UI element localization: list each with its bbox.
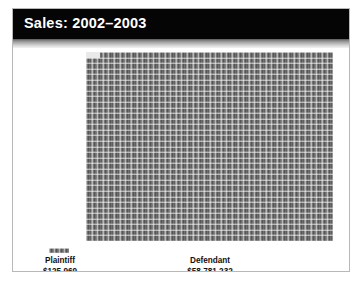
- defendant-value: $58,781,232: [149, 267, 271, 273]
- title-gradient-divider: [13, 39, 349, 48]
- defendant-label-group: Defendant $58,781,232: [149, 256, 271, 272]
- unit-square: [327, 235, 333, 241]
- page-title: Sales: 2002–2003: [24, 15, 147, 31]
- slide-frame: Sales: 2002–2003 Plaintiff $125,969 Defe…: [12, 8, 350, 272]
- plaintiff-unit-square-block: [49, 248, 69, 253]
- chart-plot-area: Plaintiff $125,969 Defendant $58,781,232: [13, 48, 349, 271]
- defendant-unit-square-block: [86, 52, 333, 241]
- unit-square: [64, 248, 69, 253]
- plaintiff-label-group: Plaintiff $125,969: [27, 256, 93, 272]
- defendant-name: Defendant: [190, 256, 230, 265]
- slide-title-bar: Sales: 2002–2003: [13, 9, 349, 39]
- plaintiff-value: $125,969: [27, 267, 93, 273]
- plaintiff-name: Plaintiff: [45, 256, 75, 265]
